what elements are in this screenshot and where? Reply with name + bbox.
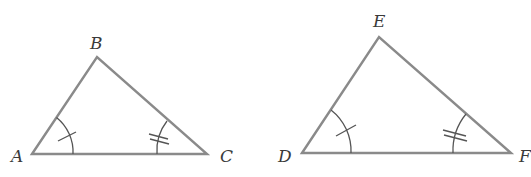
vertex-label-f: F bbox=[518, 146, 531, 166]
vertex-label-d: D bbox=[277, 146, 292, 166]
vertex-label-a: A bbox=[9, 146, 23, 166]
triangle-def-outline bbox=[302, 37, 511, 153]
triangle-abc: A B C bbox=[9, 33, 233, 166]
angle-d-single-tick bbox=[336, 125, 356, 136]
angle-a-arc bbox=[57, 118, 74, 155]
angle-c-tick-2 bbox=[150, 139, 169, 144]
vertex-label-e: E bbox=[372, 11, 386, 31]
angle-d-arc bbox=[331, 110, 351, 153]
vertex-label-c: C bbox=[220, 146, 233, 166]
vertex-label-b: B bbox=[89, 33, 103, 53]
triangle-def: D E F bbox=[277, 11, 531, 166]
angle-a-single-tick bbox=[58, 132, 76, 141]
triangle-abc-outline bbox=[32, 57, 207, 154]
similar-triangles-diagram: A B C D E F bbox=[0, 0, 531, 177]
